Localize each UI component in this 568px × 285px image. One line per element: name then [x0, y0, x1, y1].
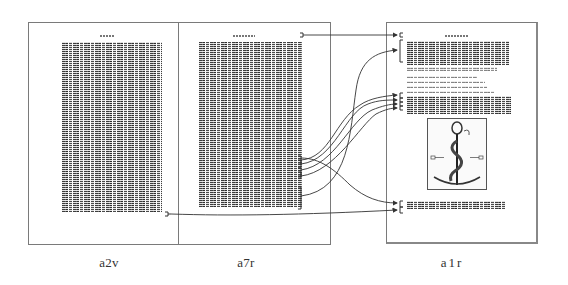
- label-a1r: a1r: [441, 255, 464, 271]
- connector-arrows: [0, 0, 568, 285]
- bracket-a2v: [165, 212, 171, 216]
- arrow-opening: [301, 50, 397, 196]
- label-a7r: a7r: [237, 255, 255, 271]
- arrow-a2v: [171, 210, 397, 215]
- bracket-group-a7r: [298, 156, 301, 178]
- label-a2v: a2v: [99, 255, 119, 271]
